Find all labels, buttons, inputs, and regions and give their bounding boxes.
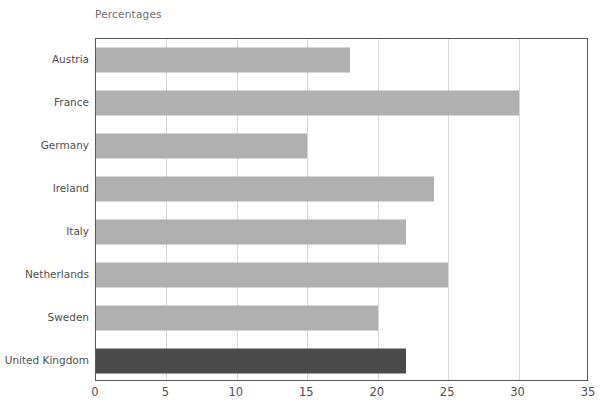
- x-tick-label-30: 30: [510, 385, 525, 399]
- x-tick-label-10: 10: [229, 385, 244, 399]
- bar-band: [96, 211, 587, 254]
- x-axis-tick-labels: 05101520253035: [0, 385, 609, 409]
- bar-france[interactable]: [96, 91, 519, 116]
- bar-sweden[interactable]: [96, 305, 378, 330]
- bar-band: [96, 296, 587, 339]
- chart-title: Percentages: [95, 8, 162, 20]
- bar-ireland[interactable]: [96, 177, 434, 202]
- x-tick-label-25: 25: [440, 385, 455, 399]
- bar-italy[interactable]: [96, 219, 406, 244]
- x-tick-label-0: 0: [91, 385, 98, 399]
- bar-band: [96, 82, 587, 125]
- bars-layer: [96, 39, 587, 380]
- category-label-united-kingdom: United Kingdom: [5, 354, 89, 366]
- bar-netherlands[interactable]: [96, 262, 448, 287]
- x-tick-label-35: 35: [581, 385, 596, 399]
- category-label-austria: Austria: [52, 53, 89, 65]
- bar-band: [96, 168, 587, 211]
- category-label-france: France: [54, 96, 89, 108]
- bar-germany[interactable]: [96, 134, 307, 159]
- bar-band: [96, 39, 587, 82]
- y-axis-category-labels: AustriaFranceGermanyIrelandItalyNetherla…: [0, 38, 93, 381]
- x-tick-label-20: 20: [369, 385, 384, 399]
- category-label-netherlands: Netherlands: [25, 268, 89, 280]
- bar-band: [96, 339, 587, 382]
- category-label-germany: Germany: [41, 139, 89, 151]
- category-label-ireland: Ireland: [53, 182, 89, 194]
- bar-austria[interactable]: [96, 48, 350, 73]
- bar-united-kingdom[interactable]: [96, 348, 406, 373]
- x-tick-label-5: 5: [162, 385, 169, 399]
- category-label-italy: Italy: [66, 225, 89, 237]
- x-tick-label-15: 15: [299, 385, 314, 399]
- plot-area: [95, 38, 588, 381]
- bar-band: [96, 125, 587, 168]
- category-label-sweden: Sweden: [48, 311, 90, 323]
- bar-chart: Percentages AustriaFranceGermanyIrelandI…: [0, 0, 609, 419]
- bar-band: [96, 253, 587, 296]
